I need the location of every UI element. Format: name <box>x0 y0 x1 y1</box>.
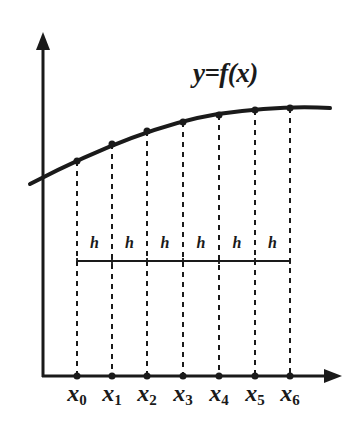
curve-point-x3 <box>180 119 187 126</box>
axis-point-x2 <box>144 373 151 380</box>
step-label-h: h <box>161 234 170 252</box>
x-label-5: x5 <box>245 380 265 409</box>
axis-point-x1 <box>109 373 116 380</box>
y-axis-arrow-icon <box>36 32 50 50</box>
x-axis-arrow-icon <box>324 369 342 383</box>
x-label-4: x4 <box>209 380 229 409</box>
x-label-1: x1 <box>102 380 122 409</box>
axis-point-x5 <box>252 373 259 380</box>
x-label-3: x3 <box>173 380 193 409</box>
axis-point-x3 <box>180 373 187 380</box>
axis-point-x6 <box>287 373 294 380</box>
axis-point-x0 <box>74 373 81 380</box>
curve-point-x2 <box>144 128 151 135</box>
step-label-h: h <box>125 234 134 252</box>
step-measure-line <box>77 258 290 264</box>
step-label-h: h <box>197 234 206 252</box>
x-label-6: x6 <box>280 380 300 409</box>
step-label-h: h <box>268 234 277 252</box>
function-curve <box>30 107 330 184</box>
curve-point-x0 <box>74 158 81 165</box>
step-label-h: h <box>90 234 99 252</box>
curve-point-x1 <box>109 141 116 148</box>
x-label-2: x2 <box>137 380 157 409</box>
curve-point-x6 <box>287 105 294 112</box>
riemann-partition-diagram: y=f(x) hhhhhh x0x1x2x3x4x5x6 <box>0 0 360 428</box>
function-label: y=f(x) <box>193 58 258 89</box>
diagram-canvas <box>0 0 360 428</box>
axis-point-x4 <box>216 373 223 380</box>
axes <box>36 32 342 383</box>
x-label-0: x0 <box>67 380 87 409</box>
curve-point-x4 <box>216 112 223 119</box>
curve-point-x5 <box>252 107 259 114</box>
step-label-h: h <box>233 234 242 252</box>
